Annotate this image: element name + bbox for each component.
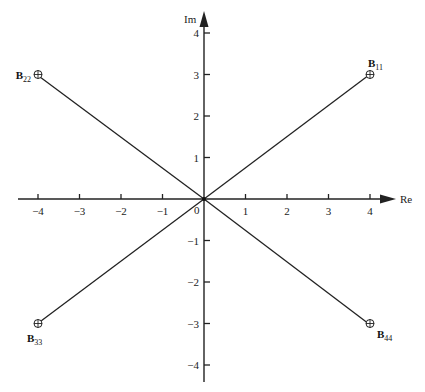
y-tick-label: 4: [194, 27, 200, 39]
x-tick-label: 1: [243, 205, 249, 217]
origin-label: 0: [194, 204, 200, 216]
real-axis-label: Re: [400, 193, 412, 205]
point-b22: B22: [16, 69, 42, 84]
point-b33: B33: [27, 320, 42, 347]
y-tick-label: −2: [187, 276, 199, 288]
x-tick-label: 3: [326, 205, 332, 217]
y-tick-label: 1: [194, 152, 200, 164]
imaginary-axis: Im 4321−1−2−3−4: [184, 11, 210, 382]
x-tick-label: 2: [284, 205, 290, 217]
origin-dot: [202, 197, 206, 201]
y-tick-label: 3: [194, 69, 200, 81]
x-tick-label: −3: [74, 205, 86, 217]
ray-b11: [204, 75, 369, 199]
point-label: B22: [16, 69, 31, 84]
real-axis: Re −4−3−2−11234: [18, 193, 412, 217]
point-label: B44: [377, 328, 392, 343]
ray-b22: [36, 74, 204, 199]
point-b11: B11: [366, 57, 383, 79]
ray-b33: [37, 199, 204, 324]
arrow-up-icon: [200, 11, 209, 27]
imaginary-axis-label: Im: [184, 13, 197, 25]
ray-b44: [204, 199, 369, 324]
y-tick-label: −1: [187, 235, 199, 247]
y-tick-label: −3: [187, 318, 199, 330]
x-tick-label: −4: [32, 205, 44, 217]
point-b44: B44: [366, 320, 392, 343]
x-tick-label: −1: [157, 205, 169, 217]
x-tick-label: 4: [367, 205, 373, 217]
complex-plane-diagram: Re −4−3−2−11234 Im 4321−1−2−3−4 0 B11B22…: [0, 0, 425, 392]
x-tick-label: −2: [115, 205, 127, 217]
arrow-right-icon: [380, 195, 396, 204]
point-label: B11: [368, 57, 383, 72]
y-tick-label: 2: [194, 110, 200, 122]
point-label: B33: [27, 332, 42, 347]
y-tick-label: −4: [187, 359, 199, 371]
